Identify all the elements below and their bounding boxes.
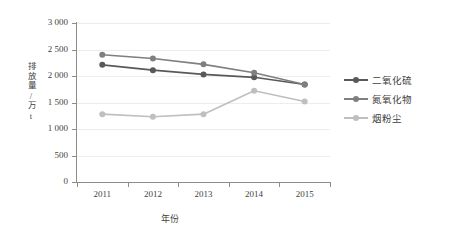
legend-item[interactable]: 二氧化硫	[344, 70, 448, 89]
chart-legend: 二氧化硫氮氧化物烟粉尘	[344, 70, 448, 127]
legend-marker-icon	[344, 113, 368, 123]
x-axis-title: 年份	[0, 212, 340, 225]
data-point	[99, 62, 105, 68]
legend-marker-icon	[344, 75, 368, 85]
data-point	[302, 98, 308, 104]
data-point	[150, 114, 156, 120]
legend-item[interactable]: 烟粉尘	[344, 108, 448, 127]
data-point	[201, 71, 207, 77]
data-point	[150, 56, 156, 62]
legend-label: 烟粉尘	[372, 111, 402, 125]
legend-dot	[353, 115, 359, 121]
emissions-line-chart: 排放量/万t 3 0002 5002 0001 5001 0005000 201…	[0, 0, 450, 236]
legend-label: 二氧化硫	[372, 73, 412, 87]
data-point	[251, 88, 257, 94]
legend-marker-icon	[344, 94, 368, 104]
data-point	[302, 81, 308, 87]
data-point	[201, 111, 207, 117]
data-point	[251, 70, 257, 76]
data-point	[201, 61, 207, 67]
data-point	[99, 52, 105, 58]
legend-label: 氮氧化物	[372, 92, 412, 106]
data-point	[150, 67, 156, 73]
legend-dot	[353, 96, 359, 102]
data-point	[99, 111, 105, 117]
legend-dot	[353, 77, 359, 83]
legend-item[interactable]: 氮氧化物	[344, 89, 448, 108]
